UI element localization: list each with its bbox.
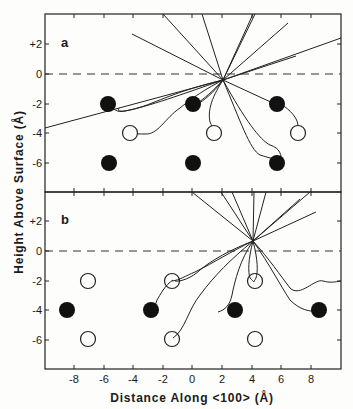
panel-a-y-tick-labels: +2 0 -2 -4 -6 xyxy=(29,38,42,169)
svg-text:-4: -4 xyxy=(32,304,42,316)
filled-atom xyxy=(185,96,201,112)
open-atom xyxy=(291,126,306,141)
svg-text:-6: -6 xyxy=(32,157,42,169)
open-atom xyxy=(248,274,263,289)
open-atom xyxy=(81,332,96,347)
open-atom xyxy=(123,126,138,141)
filled-atom xyxy=(311,302,327,318)
svg-text:-4: -4 xyxy=(32,127,42,139)
filled-atom xyxy=(269,155,285,171)
filled-atom xyxy=(143,302,159,318)
panel-b-y-tick-labels: +2 0 -2 -4 -6 xyxy=(29,215,42,346)
svg-text:+2: +2 xyxy=(29,215,42,227)
svg-text:4: 4 xyxy=(249,373,255,385)
svg-text:-2: -2 xyxy=(32,98,42,110)
panel-a-atoms xyxy=(100,96,306,171)
svg-text:-6: -6 xyxy=(99,373,109,385)
x-axis-label: Distance Along <100> (Å) xyxy=(110,390,273,405)
open-atom xyxy=(165,332,180,347)
svg-text:-6: -6 xyxy=(32,334,42,346)
filled-atom xyxy=(227,302,243,318)
open-atom xyxy=(207,126,222,141)
svg-text:+2: +2 xyxy=(29,38,42,50)
y-axis-label: Height Above Surface (Å) xyxy=(11,110,26,273)
svg-text:0: 0 xyxy=(189,373,195,385)
svg-text:0: 0 xyxy=(36,68,42,80)
svg-text:-2: -2 xyxy=(32,275,42,287)
panel-a-label: a xyxy=(61,35,69,50)
svg-text:-4: -4 xyxy=(128,373,138,385)
open-atom xyxy=(81,274,96,289)
filled-atom xyxy=(269,96,285,112)
filled-atom xyxy=(101,155,117,171)
filled-atom xyxy=(59,302,75,318)
panel-b-trajectories xyxy=(153,192,341,338)
filled-atom xyxy=(100,96,116,112)
svg-text:-2: -2 xyxy=(158,373,168,385)
svg-text:-8: -8 xyxy=(69,373,79,385)
svg-text:0: 0 xyxy=(36,245,42,257)
x-tick-labels: -8 -6 -4 -2 0 2 4 6 8 xyxy=(69,373,314,385)
trajectory-figure: +2 0 -2 -4 -6 +2 0 -2 -4 -6 -8 -6 -4 -2 … xyxy=(0,0,353,409)
svg-text:8: 8 xyxy=(308,373,314,385)
svg-text:2: 2 xyxy=(219,373,225,385)
open-atom xyxy=(248,332,263,347)
panel-b-label: b xyxy=(61,212,69,227)
svg-text:6: 6 xyxy=(278,373,284,385)
filled-atom xyxy=(185,155,201,171)
